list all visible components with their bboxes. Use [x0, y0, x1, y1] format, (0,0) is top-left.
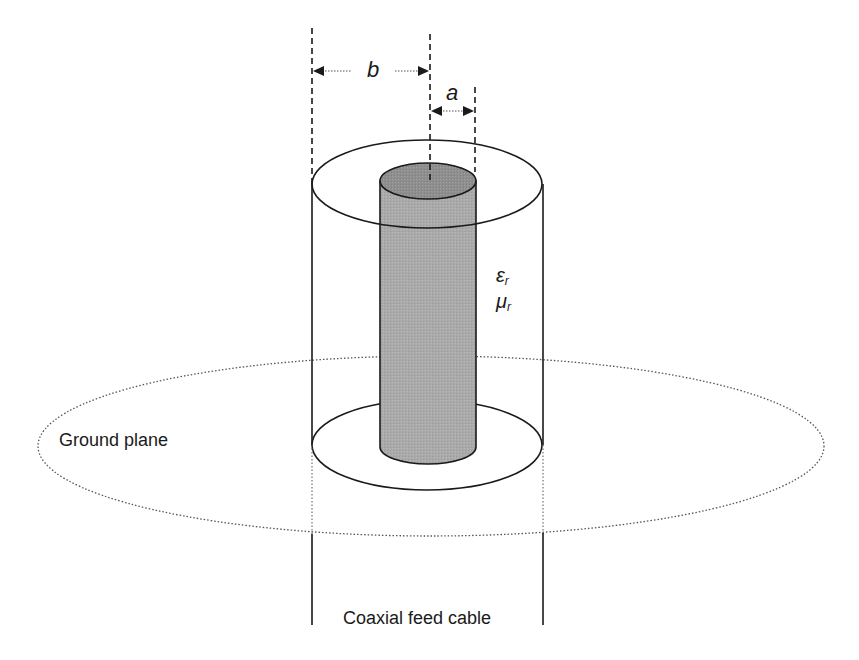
mu-symbol: μ	[496, 290, 507, 312]
coaxial-feed-cable-label: Coaxial feed cable	[343, 608, 491, 629]
epsilon-symbol: ε	[496, 264, 505, 286]
dimension-b-label: b	[367, 57, 379, 83]
permittivity-label: εr	[496, 264, 509, 288]
ground-plane-label: Ground plane	[59, 430, 168, 451]
inner-conductor	[380, 163, 476, 464]
mu-subscript: r	[507, 300, 511, 314]
epsilon-subscript: r	[505, 274, 509, 288]
coax-diagram-canvas	[0, 0, 859, 660]
permeability-label: μr	[496, 290, 511, 314]
dimension-lines	[312, 28, 475, 184]
dimension-a-label: a	[446, 80, 458, 106]
dimension-a-arrow	[431, 106, 474, 116]
